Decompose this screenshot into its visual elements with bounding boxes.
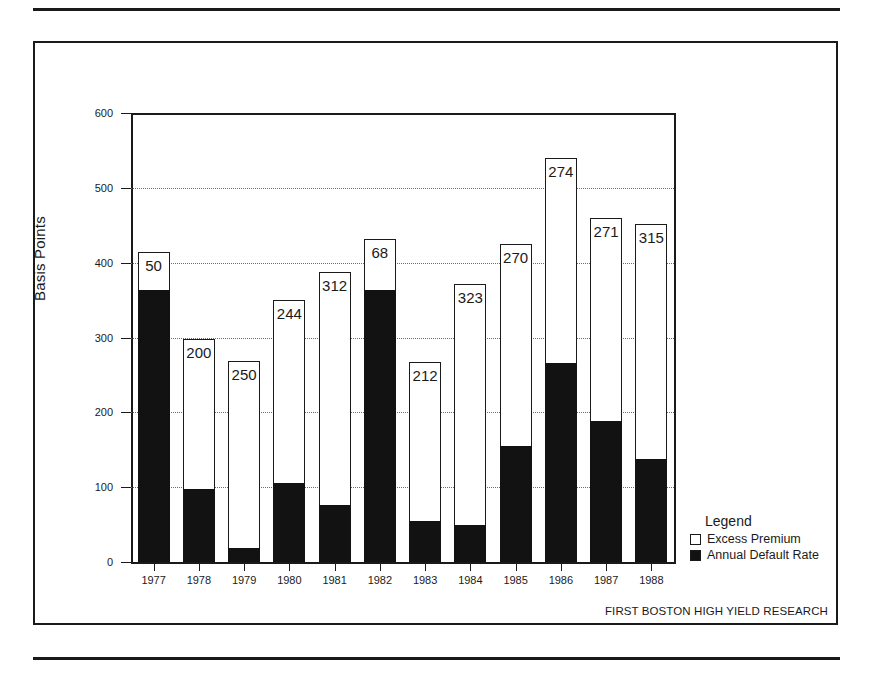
bar-annual-default-rate[interactable] [183,489,215,562]
x-axis-line [131,562,676,564]
x-axis-tick-label: 1978 [187,574,211,586]
bar-value-label: 200 [185,344,212,361]
y-axis-tick-label: 500 [95,182,119,194]
x-axis-tick-label: 1977 [141,574,165,586]
x-axis-tick [289,564,290,571]
white-square-icon [690,534,701,545]
x-axis-tick-label: 1985 [503,574,527,586]
bar-excess-premium[interactable] [228,361,260,562]
y-axis-tick-label: 200 [95,406,119,418]
bar-annual-default-rate[interactable] [500,446,532,562]
bar-annual-default-rate[interactable] [319,505,351,562]
y-axis-tick [121,113,131,114]
x-axis-tick [470,564,471,571]
x-axis-tick-label: 1980 [277,574,301,586]
y-axis-tick-label: 400 [95,257,119,269]
bar-group[interactable]: 312 [319,113,351,562]
bar-annual-default-rate[interactable] [635,459,667,562]
bar-annual-default-rate[interactable] [409,521,441,562]
bar-value-label: 212 [412,367,439,384]
legend-item[interactable]: Annual Default Rate [690,548,819,562]
y-axis-tick-label: 0 [107,556,119,568]
bar-group[interactable]: 274 [545,113,577,562]
legend-title: Legend [705,513,819,529]
bar-annual-default-rate[interactable] [364,290,396,562]
bar-group[interactable]: 68 [364,113,396,562]
bar-value-label: 312 [321,277,348,294]
top-horizontal-rule [33,8,840,11]
black-square-icon [690,550,701,561]
x-axis-tick-label: 1979 [232,574,256,586]
bar-value-label: 270 [502,249,529,266]
legend-items: Excess PremiumAnnual Default Rate [690,532,819,562]
y-axis-tick [121,487,131,488]
x-axis-tick [244,564,245,571]
bar-value-label: 244 [276,305,303,322]
bar-annual-default-rate[interactable] [138,290,170,562]
bar-annual-default-rate[interactable] [590,421,622,562]
bar-group[interactable]: 212 [409,113,441,562]
x-axis-tick [425,564,426,571]
bar-group[interactable]: 200 [183,113,215,562]
x-axis-tick-label: 1988 [639,574,663,586]
bar-annual-default-rate[interactable] [454,525,486,562]
plot-right-border [674,113,676,564]
y-axis-tick [121,562,131,563]
y-axis-tick [121,412,131,413]
bar-group[interactable]: 315 [635,113,667,562]
x-axis-tick [335,564,336,571]
y-axis-tick-label: 300 [95,332,119,344]
legend-item-label: Excess Premium [707,532,801,546]
bar-annual-default-rate[interactable] [273,483,305,562]
x-axis-tick-label: 1984 [458,574,482,586]
bar-excess-premium[interactable] [454,284,486,562]
x-axis-tick [380,564,381,571]
legend: Legend Excess PremiumAnnual Default Rate [690,513,819,562]
x-axis-tick [651,564,652,571]
x-axis-tick [154,564,155,571]
bar-value-label: 50 [144,257,163,274]
bar-value-label: 271 [593,223,620,240]
y-axis-title: Basis Points [31,216,48,301]
bar-group[interactable]: 244 [273,113,305,562]
bottom-horizontal-rule [33,657,840,660]
source-attribution: FIRST BOSTON HIGH YIELD RESEARCH [605,605,828,617]
x-axis-tick [516,564,517,571]
x-axis-tick [606,564,607,571]
y-axis-tick [121,188,131,189]
x-axis-tick [561,564,562,571]
legend-item[interactable]: Excess Premium [690,532,819,546]
y-axis-tick-label: 100 [95,481,119,493]
bar-group[interactable]: 323 [454,113,486,562]
x-axis-tick-label: 1981 [322,574,346,586]
bar-value-label: 250 [231,366,258,383]
legend-item-label: Annual Default Rate [707,548,819,562]
bar-value-label: 68 [371,244,390,261]
bar-value-label: 315 [638,229,665,246]
chart-frame: Basis Points 0100200300400500600 5020025… [33,41,838,625]
bar-annual-default-rate[interactable] [228,548,260,562]
bar-group[interactable]: 250 [228,113,260,562]
x-axis-tick-label: 1987 [594,574,618,586]
bar-annual-default-rate[interactable] [545,363,577,562]
bar-value-label: 323 [457,289,484,306]
bar-value-label: 274 [547,163,574,180]
x-axis-tick-label: 1986 [549,574,573,586]
bar-group[interactable]: 270 [500,113,532,562]
bar-group[interactable]: 271 [590,113,622,562]
bar-group[interactable]: 50 [138,113,170,562]
x-axis-tick [199,564,200,571]
x-axis-tick-label: 1982 [368,574,392,586]
y-axis-tick-label: 600 [95,107,119,119]
y-axis-tick [121,338,131,339]
y-axis-tick [121,263,131,264]
x-axis-tick-label: 1983 [413,574,437,586]
